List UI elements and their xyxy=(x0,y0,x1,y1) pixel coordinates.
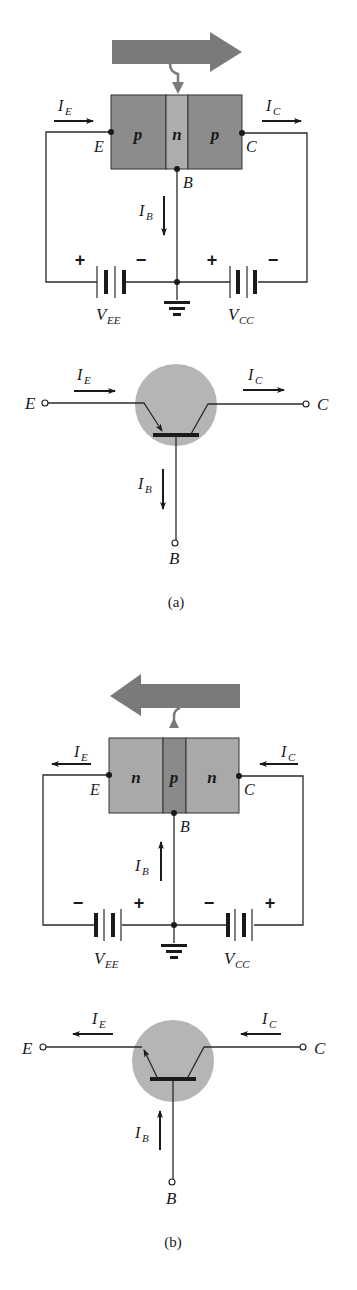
svg-text:CC: CC xyxy=(235,958,250,970)
svg-text:I: I xyxy=(280,743,287,760)
svg-text:EE: EE xyxy=(104,958,119,970)
svg-text:B: B xyxy=(145,483,152,495)
svg-text:I: I xyxy=(134,1124,141,1141)
svg-text:+: + xyxy=(134,893,145,913)
terminal-label: E xyxy=(93,138,104,155)
terminal-label: B xyxy=(183,174,193,191)
svg-text:B: B xyxy=(142,865,149,877)
svg-text:E: E xyxy=(64,105,72,117)
ground-icon xyxy=(161,944,187,959)
region-label: p xyxy=(209,125,220,144)
flow-arrow-left-icon xyxy=(110,674,240,728)
region-label: n xyxy=(172,125,181,144)
current-ib: I B xyxy=(134,842,161,881)
pnp-symbol: E C B I E I C I B xyxy=(24,364,329,568)
flow-arrow-right-icon xyxy=(112,32,242,94)
svg-text:E: E xyxy=(24,394,36,413)
current-ic: I C xyxy=(260,743,298,764)
svg-text:+: + xyxy=(265,893,276,913)
svg-text:B: B xyxy=(146,210,153,222)
current-ie: I E xyxy=(52,743,91,764)
svg-text:−: − xyxy=(204,893,215,913)
svg-text:E: E xyxy=(83,374,91,386)
region-label: p xyxy=(168,768,179,787)
svg-text:+: + xyxy=(207,250,218,270)
svg-text:I: I xyxy=(134,857,141,874)
svg-text:C: C xyxy=(255,374,263,386)
svg-text:C: C xyxy=(317,395,329,414)
region-label: n xyxy=(131,768,140,787)
caption-a: (a) xyxy=(168,594,185,611)
svg-text:I: I xyxy=(76,366,83,383)
battery-icon-vee: − + V EE xyxy=(73,893,145,970)
svg-text:−: − xyxy=(73,893,84,913)
terminal-label: E xyxy=(89,781,100,798)
terminal-label: C xyxy=(246,138,257,155)
svg-text:EE: EE xyxy=(106,314,121,326)
svg-text:C: C xyxy=(269,1018,277,1030)
npn-block: n p n xyxy=(109,738,239,813)
svg-text:B: B xyxy=(166,1189,177,1208)
region-label: n xyxy=(207,768,216,787)
svg-text:I: I xyxy=(247,366,254,383)
svg-text:I: I xyxy=(261,1010,268,1027)
current-ie: I E xyxy=(54,97,93,121)
svg-text:C: C xyxy=(273,105,281,117)
ground-icon xyxy=(164,301,190,316)
battery-icon-vcc: − + V CC xyxy=(204,893,276,970)
svg-text:−: − xyxy=(136,250,147,270)
svg-text:E: E xyxy=(98,1018,106,1030)
caption-b: (b) xyxy=(164,1234,182,1251)
battery-icon-vcc: + − V CC xyxy=(207,250,279,326)
svg-text:C: C xyxy=(314,1039,326,1058)
svg-text:I: I xyxy=(91,1010,98,1027)
current-ic: I C xyxy=(262,97,301,121)
terminal-label: B xyxy=(180,818,190,835)
panel-a: p n p E C B I E I C I B xyxy=(24,32,329,611)
battery-icon-vee: + − V EE xyxy=(75,250,147,326)
svg-text:CC: CC xyxy=(239,314,254,326)
svg-text:E: E xyxy=(21,1039,33,1058)
svg-text:I: I xyxy=(138,202,145,219)
svg-text:B: B xyxy=(169,549,180,568)
svg-text:C: C xyxy=(288,751,296,763)
svg-text:E: E xyxy=(80,751,88,763)
npn-symbol: E C B I E I C I B xyxy=(21,1010,326,1208)
current-ib: I B xyxy=(138,196,164,235)
svg-text:I: I xyxy=(73,743,80,760)
bjt-figure: p n p E C B I E I C I B xyxy=(0,0,357,1290)
svg-text:B: B xyxy=(142,1132,149,1144)
svg-text:I: I xyxy=(137,475,144,492)
svg-text:+: + xyxy=(75,250,86,270)
pnp-block: p n p xyxy=(111,95,242,169)
terminal-label: C xyxy=(244,781,255,798)
svg-text:−: − xyxy=(268,250,279,270)
svg-text:I: I xyxy=(57,97,64,114)
region-label: p xyxy=(132,125,143,144)
svg-text:I: I xyxy=(265,97,272,114)
panel-b: n p n E C B I E I C I B xyxy=(21,674,326,1251)
